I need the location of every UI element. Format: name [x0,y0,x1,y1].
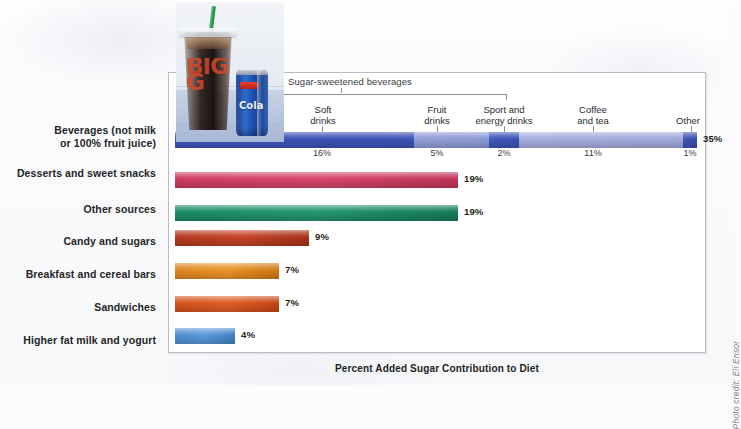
bar-value-breakfast: 7% [285,264,299,275]
can-brand-bar [240,82,258,89]
cup-lid [179,28,237,37]
can-highlight [257,70,262,136]
can-top [236,70,268,75]
bar-row-other-sources[interactable]: 19% [175,205,458,221]
bar-segment-other[interactable] [683,132,697,148]
bar-segment-fruit-drinks[interactable] [414,132,489,148]
beverage-photo: BIG G Cola [176,2,284,142]
bar-value-beverages: 35% [703,133,722,144]
bar-candy[interactable] [175,230,309,246]
bar-value-milk-yogurt: 4% [241,329,255,340]
x-axis-title: Percent Added Sugar Contribution to Diet [168,363,706,374]
bar-value-candy: 9% [315,231,329,242]
photo-credit: Photo credit: Eli Ensor [731,341,741,429]
bar-row-sandwiches[interactable]: 7% [175,296,279,312]
cola-can: Cola [236,70,268,136]
bar-row-desserts[interactable]: 19% [175,172,458,188]
bar-value-desserts: 19% [464,173,483,184]
bar-breakfast[interactable] [175,263,279,279]
bar-sandwiches[interactable] [175,296,279,312]
bar-row-candy[interactable]: 9% [175,230,309,246]
bar-other-sources[interactable] [175,205,458,221]
bar-value-sandwiches: 7% [285,297,299,308]
bar-desserts[interactable] [175,172,458,188]
bar-row-breakfast[interactable]: 7% [175,263,279,279]
bar-row-milk-yogurt[interactable]: 4% [175,328,235,344]
bar-milk-yogurt[interactable] [175,328,235,344]
bar-segment-sport-energy[interactable] [489,132,519,148]
soda-foam [184,36,232,49]
cup-logo-text: BIG G [186,58,230,90]
bar-segment-coffee-tea[interactable] [519,132,683,148]
bar-value-other-sources: 19% [464,206,483,217]
